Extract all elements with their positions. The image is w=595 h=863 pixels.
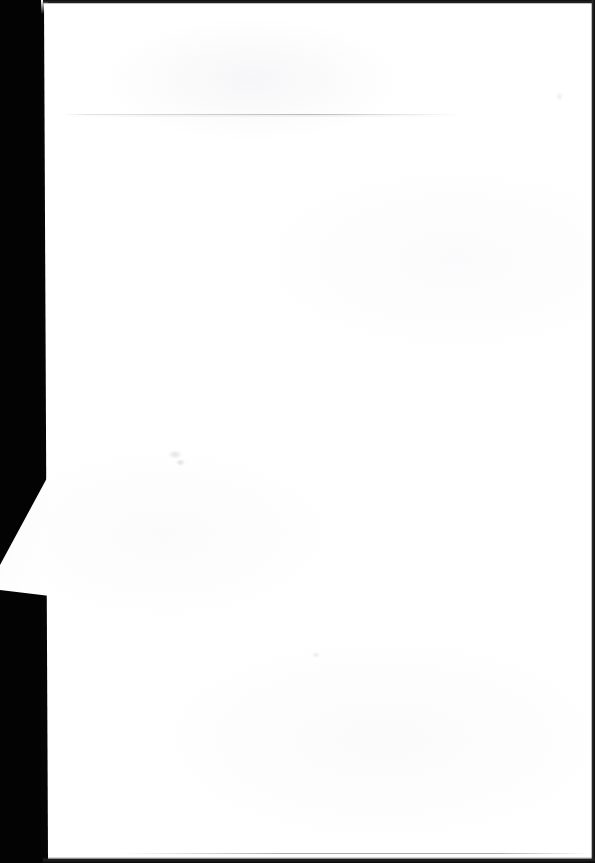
fold-line-shadow — [62, 115, 462, 117]
scan-edge-bottom — [43, 857, 595, 863]
scan-edge-top — [43, 0, 595, 4]
lifted-page-corner — [0, 470, 52, 606]
scan-edge-bottom-hairline — [120, 853, 590, 854]
paper-sheet — [43, 3, 592, 859]
scanned-page-canvas — [0, 0, 595, 863]
scanner-bed-left-margin — [0, 0, 48, 863]
lifted-page-corner-shape — [0, 470, 52, 606]
paper-grain-texture — [43, 3, 592, 859]
scan-edge-right — [591, 0, 595, 863]
